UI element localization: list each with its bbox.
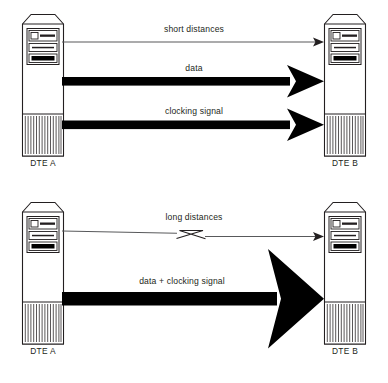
diagram-canvas [0, 0, 388, 383]
line-break-marker [177, 231, 206, 239]
label-dte-b-bottom: DTE B [332, 347, 358, 355]
label-clocking-signal: clocking signal [165, 107, 223, 116]
label-long-distances: long distances [165, 213, 222, 222]
label-data-plus-clocking-signal: data + clocking signal [139, 277, 225, 286]
connection-long-distances [62, 231, 324, 241]
label-dte-a-top: DTE A [30, 159, 56, 167]
connection-short-distances [62, 38, 324, 47]
computer-tower-icon-dte-a-bottom [23, 203, 64, 345]
label-data: data [185, 64, 202, 73]
label-short-distances: short distances [164, 25, 224, 34]
label-dte-b-top: DTE B [332, 159, 358, 167]
computer-tower-icon-dte-a-top [23, 15, 64, 157]
computer-tower-icon-dte-b-top [325, 15, 366, 157]
connection-data-plus-clocking-signal [62, 249, 324, 349]
network-diagram: short distances data clocking signal DTE… [0, 0, 388, 383]
computer-tower-icon-dte-b-bottom [325, 203, 366, 345]
label-dte-a-bottom: DTE A [30, 347, 56, 355]
